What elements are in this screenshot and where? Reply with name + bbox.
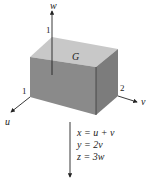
w-axis-label: w (50, 1, 57, 11)
v-axis-tick: 2 (120, 84, 125, 93)
equation-x: x = u + v (77, 128, 114, 138)
region-label: G (72, 52, 79, 62)
u-axis-label: u (5, 117, 10, 127)
front-face (30, 57, 96, 115)
equation-z: z = 3w (77, 152, 104, 162)
w-axis-tick: 1 (46, 26, 51, 35)
equation-y: y = 2v (77, 140, 103, 150)
v-axis (118, 96, 137, 102)
u-axis-tick: 1 (22, 87, 27, 96)
v-axis-label: v (141, 97, 145, 107)
u-axis (11, 97, 30, 112)
